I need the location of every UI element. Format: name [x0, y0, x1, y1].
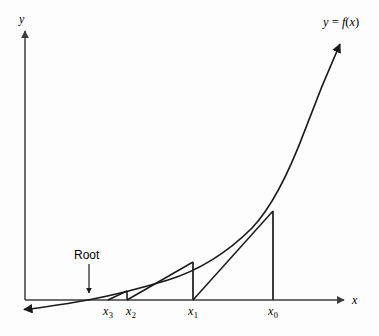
diagram-canvas	[0, 0, 379, 336]
x-label-x1: x1	[188, 305, 198, 317]
x-label-x0-base: x	[268, 304, 273, 318]
y-axis-label: y	[19, 13, 24, 25]
x-label-x1-base: x	[188, 304, 193, 318]
function-curve	[24, 44, 340, 310]
x-label-x3: x3	[103, 305, 113, 317]
curve-label-equals: =	[329, 15, 342, 29]
x-label-x2-subscript: 2	[132, 310, 136, 320]
x-label-x0: x0	[268, 305, 278, 317]
x-label-x2-base: x	[126, 304, 131, 318]
tangent-line-x1	[127, 262, 193, 300]
x-label-x3-base: x	[103, 304, 108, 318]
curve-label: y = f(x)	[323, 16, 359, 29]
newton-method-figure: y x y = f(x) Root x3 x2 x1 x0	[0, 0, 379, 336]
tangent-line-x0	[193, 211, 273, 300]
x-label-x0-subscript: 0	[274, 310, 278, 320]
x-label-x2: x2	[126, 305, 136, 317]
x-axis-label: x	[352, 294, 357, 306]
x-label-x3-subscript: 3	[109, 310, 113, 320]
curve-label-close-paren: )	[355, 15, 359, 29]
root-label: Root	[74, 249, 99, 261]
x-label-x1-subscript: 1	[194, 310, 198, 320]
